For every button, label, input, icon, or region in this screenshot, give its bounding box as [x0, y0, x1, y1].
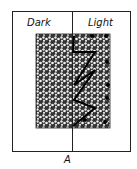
diagram: [0, 0, 137, 169]
dot-marker: [105, 60, 109, 64]
dot-marker: [105, 96, 109, 100]
dot-marker: [83, 118, 87, 122]
dot-marker: [106, 83, 110, 87]
caption-label: A: [64, 154, 71, 165]
dark-label: Dark: [27, 17, 51, 28]
dot-marker: [104, 34, 108, 38]
dot-marker: [90, 34, 94, 38]
light-label: Light: [88, 17, 113, 28]
dot-marker: [103, 120, 107, 124]
